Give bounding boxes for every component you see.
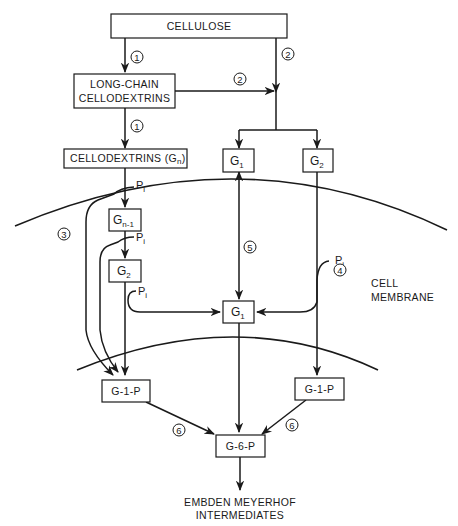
node-g1p-right: G-1-P xyxy=(295,378,344,400)
phosphate-labels: Pi Pi Pi Pi xyxy=(136,179,344,300)
svg-text:5: 5 xyxy=(247,242,252,253)
svg-text:2: 2 xyxy=(285,49,290,60)
embden-meyerhof-label: EMBDEN MEYERHOF INTERMEDIATES xyxy=(184,496,296,521)
node-gn-minus-1: Gn-1 xyxy=(109,209,141,231)
node-cellodextrins-gn: CELLODEXTRINS (Gn) xyxy=(64,149,187,168)
svg-text:CELLODEXTRINS: CELLODEXTRINS xyxy=(79,92,170,104)
node-long-chain-cellodextrins: LONG-CHAIN CELLODEXTRINS xyxy=(74,74,175,108)
outer-cell-membrane xyxy=(15,179,447,230)
svg-text:INTERMEDIATES: INTERMEDIATES xyxy=(196,509,284,521)
step-1-long-chain: 1 xyxy=(131,120,143,132)
node-g1-extracellular: G1 xyxy=(223,149,254,172)
svg-text:CELL: CELL xyxy=(371,277,398,289)
svg-text:6: 6 xyxy=(176,425,181,436)
svg-text:4: 4 xyxy=(337,265,342,276)
step-1-cellulose: 1 xyxy=(131,51,143,63)
step-2-long-chain: 2 xyxy=(234,73,246,85)
svg-text:2: 2 xyxy=(237,74,242,85)
step-4: 4 xyxy=(334,264,346,276)
svg-text:LONG-CHAIN: LONG-CHAIN xyxy=(90,78,159,90)
svg-text:1: 1 xyxy=(134,52,139,63)
svg-text:CELLULOSE: CELLULOSE xyxy=(167,20,232,32)
cell-membrane-label: CELL MEMBRANE xyxy=(371,277,434,303)
svg-text:CELLODEXTRINS (Gn): CELLODEXTRINS (Gn) xyxy=(70,152,185,166)
svg-text:EMBDEN MEYERHOF: EMBDEN MEYERHOF xyxy=(184,496,296,508)
step-3: 3 xyxy=(58,228,70,240)
inner-cell-membrane xyxy=(77,337,378,370)
svg-text:3: 3 xyxy=(61,229,66,240)
svg-text:6: 6 xyxy=(289,420,294,431)
node-g2-intracellular: G2 xyxy=(109,260,141,282)
svg-text:Pi: Pi xyxy=(136,231,145,246)
node-g6p: G-6-P xyxy=(216,435,265,457)
node-g2-extracellular: G2 xyxy=(303,149,333,172)
step-5: 5 xyxy=(244,241,256,253)
cellulose-metabolism-diagram: CELLULOSE LONG-CHAIN CELLODEXTRINS CELLO… xyxy=(0,0,458,526)
node-g1p-left: G-1-P xyxy=(102,380,150,402)
svg-text:G-6-P: G-6-P xyxy=(226,440,256,452)
svg-text:Pi: Pi xyxy=(136,179,145,194)
step-6-right: 6 xyxy=(286,419,298,431)
step-2-cellulose: 2 xyxy=(282,48,294,60)
node-g1-intracellular: G1 xyxy=(223,301,254,323)
node-cellulose: CELLULOSE xyxy=(111,14,287,38)
svg-text:G-1-P: G-1-P xyxy=(111,385,141,397)
svg-text:Pi: Pi xyxy=(138,285,147,300)
step-6-left: 6 xyxy=(173,424,185,436)
svg-text:MEMBRANE: MEMBRANE xyxy=(371,291,434,303)
svg-text:1: 1 xyxy=(134,121,139,132)
svg-text:G-1-P: G-1-P xyxy=(305,383,335,395)
